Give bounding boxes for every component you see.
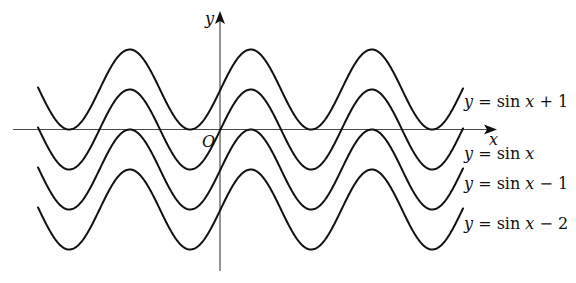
y-axis-label: y — [204, 9, 215, 28]
curves-group — [38, 50, 463, 250]
label-sin-x-minus-2: y = sin x − 2 — [463, 214, 568, 233]
sine-vertical-shift-diagram: x y O y = sin x + 1 y = sin x y = sin x … — [0, 0, 576, 283]
label-sin-x-plus-1: y = sin x + 1 — [463, 92, 568, 111]
label-sin-x-minus-1: y = sin x − 1 — [463, 174, 568, 193]
origin-label: O — [202, 132, 215, 151]
label-sin-x: y = sin x — [463, 144, 534, 163]
curve-sin-x-minus-2 — [38, 170, 463, 250]
